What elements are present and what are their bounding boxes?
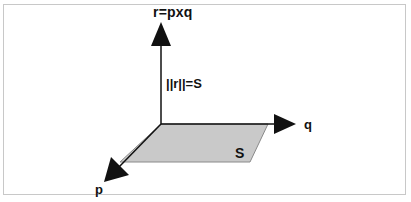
area-label: S — [235, 146, 244, 160]
magnitude-label: ||r||=S — [166, 77, 202, 90]
r-arrowhead-icon — [151, 22, 171, 46]
q-arrowhead-icon — [274, 114, 296, 134]
r-vector-label: r=pxq — [153, 5, 193, 19]
q-vector-label: q — [304, 118, 312, 131]
cross-product-diagram — [0, 0, 411, 202]
p-vector-label: p — [95, 183, 103, 196]
